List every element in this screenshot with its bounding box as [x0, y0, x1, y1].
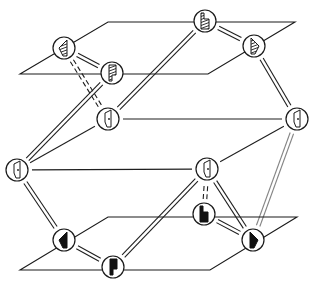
node-J-solid-flag — [102, 256, 124, 278]
door-glyph-icon — [105, 110, 111, 127]
edge-B-G — [26, 82, 103, 160]
node-D-hatched-right-wedge — [243, 34, 265, 64]
edge-I-J — [76, 246, 100, 262]
node-B-hatched-flag — [101, 61, 123, 91]
edge-K-L — [216, 219, 240, 234]
edge-H-L — [214, 181, 247, 229]
edge-G-I — [24, 181, 57, 228]
edge-H-J — [122, 179, 198, 258]
edge-C-D — [218, 26, 242, 41]
edge-D-F — [260, 58, 291, 107]
node-K-solid-step — [193, 203, 215, 225]
node-E-outline-door-dot — [97, 108, 119, 130]
edges-layer — [24, 26, 294, 261]
node-A-hatched-left-wedge — [53, 36, 75, 66]
lattice-diagram — [0, 0, 312, 287]
door-glyph-icon — [204, 160, 210, 177]
node-I-solid-left-triangle — [53, 229, 75, 251]
edge-K-H — [203, 184, 208, 199]
edge-C-E — [117, 30, 195, 109]
node-G-outline-door-dot — [6, 159, 28, 181]
edge-A-B — [76, 53, 99, 67]
door-glyph-icon — [294, 110, 300, 127]
edge-F-L — [256, 132, 293, 226]
nodes-layer — [6, 9, 308, 278]
node-F-outline-door-dot — [286, 108, 308, 130]
node-L-solid-right-triangle — [242, 229, 264, 251]
diagram-canvas — [0, 0, 312, 287]
edge-H-F — [220, 126, 284, 161]
node-H-outline-door-dot — [196, 158, 218, 180]
node-C-hatched-step — [194, 9, 216, 39]
edge-G-H — [32, 169, 192, 170]
door-glyph-icon — [14, 161, 20, 178]
